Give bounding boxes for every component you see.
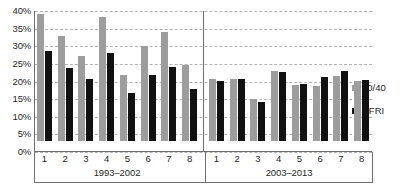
- x-axis-tick-label: 3: [248, 153, 269, 164]
- panel-boundary-line: [34, 152, 35, 183]
- bar-group: [289, 0, 310, 141]
- bar-group: [248, 0, 269, 141]
- x-axis-labels: 12345678: [34, 153, 200, 165]
- bar-hfri: [107, 53, 114, 141]
- x-axis-tick-label: 6: [138, 153, 159, 164]
- bar-60-40: [271, 71, 278, 142]
- bar-60-40: [313, 86, 320, 141]
- bar-60-40: [37, 14, 44, 141]
- y-axis-tick-label: 30%: [13, 41, 31, 51]
- x-axis-tick-label: 7: [159, 153, 180, 164]
- bar-group: [310, 0, 331, 141]
- x-axis-tick-label: 2: [227, 153, 248, 164]
- bar-hfri: [362, 80, 369, 141]
- bar-60-40: [182, 65, 189, 141]
- bar-group: [206, 0, 227, 141]
- bar-hfri: [300, 84, 307, 141]
- bar-60-40: [141, 46, 148, 141]
- panel-boundary-line: [205, 152, 206, 183]
- bar-60-40: [58, 36, 65, 141]
- x-axis-tick-label: 8: [179, 153, 200, 164]
- bar-group: [351, 0, 372, 141]
- y-axis: 0%5%10%15%20%25%30%35%40%: [0, 0, 34, 196]
- x-axis-tick-label: 2: [55, 153, 76, 164]
- bar-hfri: [149, 75, 156, 141]
- bar-chart: 0%5%10%15%20%25%30%35%40% 60/40 HFRI 123…: [0, 0, 408, 196]
- x-axis-tick-label: 1: [34, 153, 55, 164]
- x-axis-tick-label: 1: [206, 153, 227, 164]
- bar-group: [268, 0, 289, 141]
- y-axis-tick-label: 20%: [13, 77, 31, 87]
- panel-divider: [203, 11, 204, 152]
- bar-60-40: [99, 17, 106, 141]
- x-axis-labels: 12345678: [206, 153, 372, 165]
- bar-group: [331, 0, 352, 141]
- bar-hfri: [169, 67, 176, 141]
- x-axis-tick-label: 7: [331, 153, 352, 164]
- x-axis-tick-label: 8: [351, 153, 372, 164]
- x-axis-tick-label: 6: [310, 153, 331, 164]
- x-axis-tick-label: 4: [268, 153, 289, 164]
- x-axis-tick-label: 3: [76, 153, 97, 164]
- bar-60-40: [209, 79, 216, 141]
- bar-hfri: [45, 51, 52, 141]
- bar-hfri: [128, 93, 135, 141]
- bar-60-40: [250, 99, 257, 141]
- bar-hfri: [321, 77, 328, 141]
- bar-group: [34, 0, 55, 141]
- x-axis-tick-label: 5: [289, 153, 310, 164]
- panel-boundary-line: [372, 152, 373, 183]
- x-axis-tick-label: 4: [96, 153, 117, 164]
- panel-caption: 2003–2013: [206, 167, 372, 180]
- bar-group: [227, 0, 248, 141]
- bar-60-40: [354, 81, 361, 141]
- y-axis-tick-label: 10%: [13, 112, 31, 122]
- chart-panel: [34, 0, 200, 141]
- y-axis-tick-label: 0%: [18, 147, 31, 157]
- x-axis-tick-label: 5: [117, 153, 138, 164]
- bar-hfri: [341, 71, 348, 141]
- y-axis-tick-label: 35%: [13, 24, 31, 34]
- bar-hfri: [258, 102, 265, 141]
- bar-60-40: [230, 79, 237, 141]
- bar-hfri: [190, 89, 197, 141]
- bar-60-40: [161, 32, 168, 141]
- x-axis-outer-line: [34, 182, 372, 183]
- bar-60-40: [333, 76, 340, 141]
- y-axis-tick-label: 15%: [13, 94, 31, 104]
- bar-60-40: [78, 56, 85, 141]
- y-axis-tick-label: 40%: [13, 6, 31, 16]
- chart-panel: [206, 0, 372, 141]
- panel-caption: 1993–2002: [34, 167, 200, 180]
- bar-60-40: [120, 75, 127, 141]
- bar-group: [179, 0, 200, 141]
- bar-60-40: [292, 85, 299, 141]
- y-axis-tick-label: 25%: [13, 59, 31, 69]
- bar-hfri: [217, 81, 224, 141]
- y-axis-tick-label: 5%: [18, 129, 31, 139]
- bar-group: [55, 0, 76, 141]
- bar-group: [76, 0, 97, 141]
- bar-hfri: [238, 79, 245, 141]
- bar-group: [159, 0, 180, 141]
- bar-group: [138, 0, 159, 141]
- bar-group: [117, 0, 138, 141]
- bar-hfri: [66, 68, 73, 141]
- bar-group: [96, 0, 117, 141]
- bar-hfri: [279, 72, 286, 141]
- bar-hfri: [86, 79, 93, 141]
